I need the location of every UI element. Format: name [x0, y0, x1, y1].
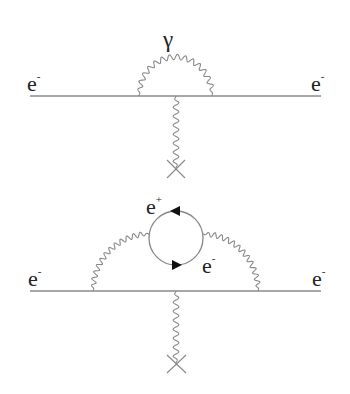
top-diagram: [30, 54, 321, 178]
arrow-electron-icon: [172, 260, 182, 270]
label-photon-gamma: γ: [163, 28, 173, 51]
external-photon-top: [173, 96, 179, 168]
label-outgoing-electron-bottom: e-: [312, 268, 325, 290]
bottom-diagram: [30, 206, 321, 373]
fermion-loop: [149, 211, 203, 265]
photon-loop-top: [138, 54, 213, 96]
diagram-art: [0, 0, 350, 394]
label-outgoing-electron-top: e-: [311, 73, 324, 95]
feynman-diagrams: e- e- γ e- e- e+ e-: [0, 0, 350, 394]
label-loop-positron: e+: [146, 196, 162, 218]
photon-left-bottom: [91, 232, 149, 291]
label-incoming-electron-top: e-: [27, 73, 40, 95]
external-photon-bottom: [173, 291, 179, 363]
label-incoming-electron-bottom: e-: [28, 268, 41, 290]
arrow-positron-icon: [170, 206, 180, 216]
external-source-cross-bottom: [167, 355, 186, 373]
external-source-cross-top: [167, 160, 185, 178]
label-loop-electron: e-: [202, 255, 215, 277]
